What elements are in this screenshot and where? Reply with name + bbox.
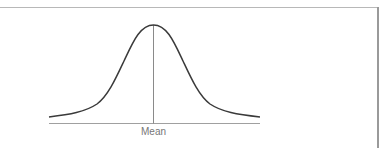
normal-curve xyxy=(49,25,260,117)
bell-curve-diagram xyxy=(0,0,390,148)
mean-label: Mean xyxy=(124,126,184,137)
